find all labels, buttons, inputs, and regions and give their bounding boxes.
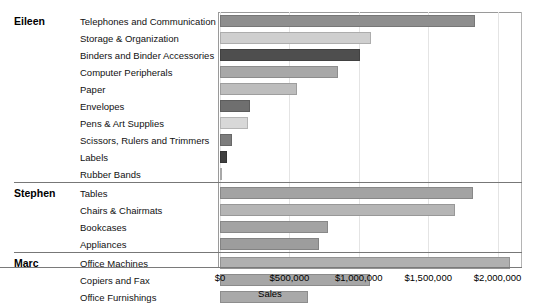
horizontal-bar-chart: EileenTelephones and CommunicationStorag…: [0, 0, 540, 308]
table-row[interactable]: Rubber Bands: [0, 166, 540, 183]
table-row[interactable]: StephenTables: [0, 185, 540, 202]
bar[interactable]: [220, 221, 328, 233]
category-label: Bookcases: [80, 219, 215, 236]
category-label: Computer Peripherals: [80, 64, 215, 81]
category-label: Pens & Art Supplies: [80, 115, 215, 132]
group-label-stephen: Stephen: [14, 185, 76, 202]
table-row[interactable]: Paper: [0, 81, 540, 98]
bar[interactable]: [220, 168, 222, 180]
table-row[interactable]: Chairs & Chairmats: [0, 202, 540, 219]
category-label: Envelopes: [80, 98, 215, 115]
category-label: Tables: [80, 185, 215, 202]
group-separator-stephen: [14, 182, 522, 183]
bar[interactable]: [220, 117, 248, 129]
group-label-eileen: Eileen: [14, 13, 76, 30]
bar[interactable]: [220, 15, 475, 27]
x-axis-line: [0, 267, 522, 268]
bar[interactable]: [220, 187, 473, 199]
table-row[interactable]: Computer Peripherals: [0, 64, 540, 81]
table-row[interactable]: Envelopes: [0, 98, 540, 115]
bar[interactable]: [220, 83, 297, 95]
category-label: Scissors, Rulers and Trimmers: [80, 132, 215, 149]
category-label: Rubber Bands: [80, 166, 215, 183]
bar[interactable]: [220, 238, 319, 250]
category-label: Telephones and Communication: [80, 13, 215, 30]
bar[interactable]: [220, 66, 338, 78]
category-label: Office Machines: [80, 255, 215, 272]
x-tick-label-4: $2,000,000: [448, 272, 540, 283]
category-label: Binders and Binder Accessories: [80, 47, 215, 64]
table-row[interactable]: Pens & Art Supplies: [0, 115, 540, 132]
bar[interactable]: [220, 32, 371, 44]
x-axis-title: Sales: [0, 288, 540, 299]
category-label: Paper: [80, 81, 215, 98]
bar[interactable]: [220, 134, 232, 146]
table-row[interactable]: Binders and Binder Accessories: [0, 47, 540, 64]
bar[interactable]: [220, 100, 250, 112]
table-row[interactable]: Scissors, Rulers and Trimmers: [0, 132, 540, 149]
table-row[interactable]: Labels: [0, 149, 540, 166]
table-row[interactable]: Bookcases: [0, 219, 540, 236]
group-label-marc: Marc: [14, 255, 76, 272]
group-separator-marc: [14, 252, 522, 253]
table-row[interactable]: MarcOffice Machines: [0, 255, 540, 272]
category-label: Chairs & Chairmats: [80, 202, 215, 219]
category-label: Labels: [80, 149, 215, 166]
category-label: Storage & Organization: [80, 30, 215, 47]
bar[interactable]: [220, 49, 360, 61]
table-row[interactable]: EileenTelephones and Communication: [0, 13, 540, 30]
bar[interactable]: [220, 204, 455, 216]
bar[interactable]: [220, 151, 227, 163]
table-row[interactable]: Appliances: [0, 236, 540, 253]
table-row[interactable]: Storage & Organization: [0, 30, 540, 47]
category-label: Appliances: [80, 236, 215, 253]
